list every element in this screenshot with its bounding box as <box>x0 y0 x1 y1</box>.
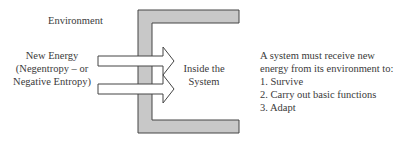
open-system-diagram: Environment New Energy (Negentropy – or … <box>0 0 407 144</box>
environment-label: Environment <box>48 14 103 27</box>
input-label-line2: (Negentropy – or <box>12 62 92 75</box>
description-item: 3. Adapt <box>260 101 393 114</box>
input-label-line1: New Energy <box>12 49 92 62</box>
input-label-line3: Negative Entropy) <box>12 75 92 88</box>
description-intro-line1: A system must receive new <box>260 49 393 62</box>
description-item: 2. Carry out basic functions <box>260 88 393 101</box>
input-energy-label: New Energy (Negentropy – or Negative Ent… <box>12 49 92 88</box>
system-label-line1: Inside the <box>174 62 234 75</box>
description-intro-line2: energy from its environment to: <box>260 62 393 75</box>
system-label: Inside the System <box>174 62 234 88</box>
description-text: A system must receive new energy from it… <box>260 49 393 114</box>
energy-arrow-1 <box>98 47 174 75</box>
system-label-line2: System <box>174 75 234 88</box>
energy-arrow-2 <box>98 75 174 103</box>
description-item: 1. Survive <box>260 75 393 88</box>
